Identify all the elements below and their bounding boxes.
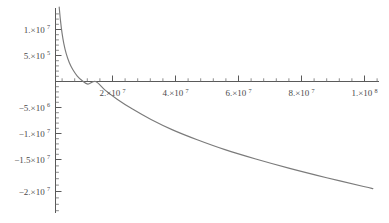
axes-group — [55, 8, 379, 213]
y-axis-major-ticks — [56, 30, 62, 192]
y-tick-label-5: −2.×10 7 — [19, 185, 50, 196]
y-tick-label-4: −1.5×10 7 — [14, 153, 50, 164]
x-tick-labels: 2.×10 7 4.×10 7 6.×10 7 8.×10 7 1.×10 8 — [99, 87, 377, 98]
y-tick-label-1: 5.×10 5 — [24, 49, 50, 60]
y-tick-label-2: −5.×10 6 — [19, 101, 50, 112]
y-tick-label-3: −1.×10 7 — [19, 127, 50, 138]
y-tick-labels: 1.×10 7 5.×10 5 −5.×10 6 −1.×10 7 −1.5×1… — [14, 23, 50, 196]
x-tick-label-2: 6.×10 7 — [225, 87, 251, 98]
x-tick-label-3: 8.×10 7 — [288, 87, 314, 98]
plot-canvas: 2.×10 7 4.×10 7 6.×10 7 8.×10 7 1.×10 8 … — [0, 0, 389, 223]
y-axis-minor-ticks — [56, 14, 59, 211]
plot-figure: 2.×10 7 4.×10 7 6.×10 7 8.×10 7 1.×10 8 … — [0, 0, 389, 223]
y-tick-label-0: 1.×10 7 — [24, 23, 50, 34]
x-tick-label-4: 1.×10 8 — [351, 87, 377, 98]
x-tick-label-0: 2.×10 7 — [99, 87, 125, 98]
x-tick-label-1: 4.×10 7 — [162, 87, 188, 98]
